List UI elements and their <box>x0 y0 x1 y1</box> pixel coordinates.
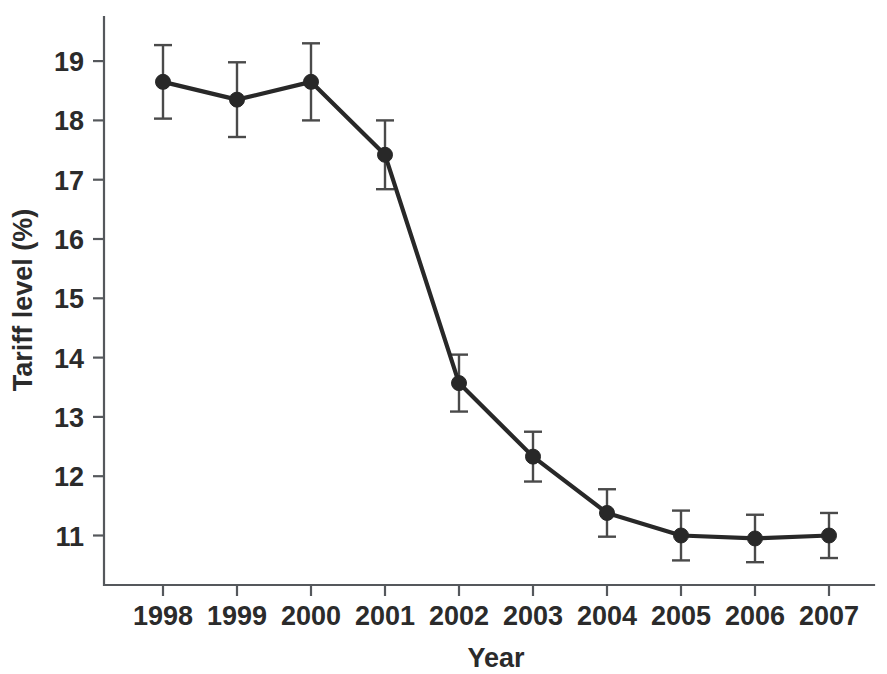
error-bars <box>154 43 838 562</box>
y-tick-label-12: 12 <box>54 462 84 492</box>
x-tick-label-2004: 2004 <box>577 601 637 631</box>
y-tick-label-14: 14 <box>54 344 84 374</box>
x-tick-label-2007: 2007 <box>799 601 859 631</box>
y-axis-tick-labels: 111213141516171819 <box>54 47 84 551</box>
data-markers <box>156 74 837 546</box>
x-tick-label-1998: 1998 <box>133 601 193 631</box>
y-tick-label-19: 19 <box>54 47 84 77</box>
x-axis-ticks <box>163 585 829 596</box>
x-tick-label-2001: 2001 <box>355 601 415 631</box>
y-tick-label-16: 16 <box>54 225 84 255</box>
data-line <box>163 82 829 539</box>
x-tick-label-1999: 1999 <box>207 601 267 631</box>
x-tick-label-2006: 2006 <box>725 601 785 631</box>
data-point-2000 <box>304 74 319 89</box>
axis-spines <box>104 17 874 585</box>
data-point-1998 <box>156 74 171 89</box>
x-axis-title: Year <box>467 643 525 673</box>
line-chart-plot: 111213141516171819 199819992000200120022… <box>0 0 887 674</box>
data-point-2002 <box>452 376 467 391</box>
x-tick-label-2003: 2003 <box>503 601 563 631</box>
y-axis-title: Tariff level (%) <box>8 209 38 392</box>
series-line-tariff-level <box>163 82 829 539</box>
data-point-2001 <box>378 147 393 162</box>
y-tick-label-13: 13 <box>54 403 84 433</box>
axes-group <box>104 17 874 585</box>
data-point-2004 <box>600 505 615 520</box>
chart-figure: 111213141516171819 199819992000200120022… <box>0 0 887 674</box>
x-axis-tick-labels: 1998199920002001200220032004200520062007 <box>133 601 859 631</box>
y-axis-ticks <box>93 61 104 535</box>
x-tick-label-2002: 2002 <box>429 601 489 631</box>
x-tick-label-2000: 2000 <box>281 601 341 631</box>
y-tick-label-15: 15 <box>54 284 84 314</box>
y-tick-label-17: 17 <box>54 166 84 196</box>
data-point-1999 <box>230 92 245 107</box>
data-point-2005 <box>674 528 689 543</box>
data-point-2006 <box>748 531 763 546</box>
x-tick-label-2005: 2005 <box>651 601 711 631</box>
y-tick-label-18: 18 <box>54 106 84 136</box>
data-point-2007 <box>822 528 837 543</box>
y-tick-label-11: 11 <box>55 522 84 552</box>
data-point-2003 <box>526 449 541 464</box>
